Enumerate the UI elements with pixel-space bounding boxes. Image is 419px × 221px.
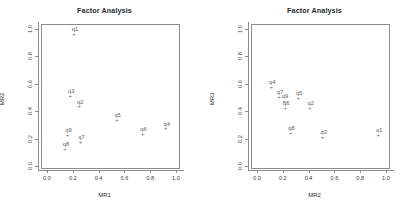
x-tick-label-right: 0.4 <box>305 175 313 181</box>
x-tick-label-right: 0.8 <box>356 175 364 181</box>
point-label: q1 <box>72 26 78 32</box>
y-tick-left <box>35 166 38 167</box>
x-tick-label-left: 1.0 <box>172 175 180 181</box>
x-tick-label-right: 1.0 <box>382 175 390 181</box>
x-tick-left <box>150 170 151 173</box>
x-tick-right <box>283 170 284 173</box>
y-tick-left <box>35 139 38 140</box>
point-label: q4 <box>163 121 169 127</box>
point-label: q6 <box>140 126 146 132</box>
point-label: q5 <box>114 112 120 118</box>
y-tick-right <box>245 166 248 167</box>
plus-marker-icon: + <box>71 32 76 37</box>
plus-marker-icon: + <box>320 135 325 140</box>
point-label: q2 <box>308 100 314 106</box>
y-tick-right <box>245 29 248 30</box>
x-axis-label-right: MR2 <box>210 192 419 198</box>
plus-marker-icon: + <box>288 131 293 136</box>
plus-marker-icon: + <box>376 133 381 138</box>
y-tick-label-right: 0.4 <box>237 107 243 115</box>
y-tick-label-left: 0.6 <box>27 80 33 88</box>
plot-area-right <box>251 24 390 169</box>
y-tick-right <box>245 111 248 112</box>
x-tick-right <box>309 170 310 173</box>
point-label: q3 <box>321 129 327 135</box>
y-tick-right <box>245 56 248 57</box>
point-label: q8 <box>288 125 294 131</box>
figure-canvas: Factor Analysis MR1 MR2 0.00.20.40.60.81… <box>0 0 419 221</box>
x-tick-label-left: 0.8 <box>146 175 154 181</box>
point-label: q9 <box>65 127 71 133</box>
plus-marker-icon: + <box>296 96 301 101</box>
point-label: q3 <box>68 88 74 94</box>
y-tick-label-left: 0.4 <box>27 107 33 115</box>
x-tick-label-left: 0.2 <box>69 175 77 181</box>
point-label: q2 <box>77 99 83 105</box>
plus-marker-icon: + <box>78 140 83 145</box>
y-tick-label-right: 0.2 <box>237 135 243 143</box>
x-tick-right <box>334 170 335 173</box>
plus-marker-icon: + <box>114 118 119 123</box>
y-tick-label-left: 1.0 <box>27 25 33 33</box>
plus-marker-icon: + <box>140 132 145 137</box>
y-tick-label-right: 0.8 <box>237 53 243 61</box>
plus-marker-icon: + <box>283 106 288 111</box>
plus-marker-icon: + <box>68 94 73 99</box>
y-tick-label-left: 0.2 <box>27 135 33 143</box>
point-label: q8 <box>63 141 69 147</box>
x-tick-right <box>257 170 258 173</box>
point-label: q5 <box>296 90 302 96</box>
y-tick-left <box>35 56 38 57</box>
plot-panel-left: Factor Analysis MR1 MR2 0.00.20.40.60.81… <box>0 0 209 221</box>
plus-marker-icon: + <box>62 147 67 152</box>
plus-marker-icon: + <box>65 133 70 138</box>
y-tick-right <box>245 139 248 140</box>
point-label: q6 <box>283 100 289 106</box>
plus-marker-icon: + <box>163 126 168 131</box>
x-tick-label-right: 0.2 <box>279 175 287 181</box>
x-tick-right <box>386 170 387 173</box>
x-tick-left <box>73 170 74 173</box>
plus-marker-icon: + <box>77 104 82 109</box>
y-tick-left <box>35 84 38 85</box>
plot-title-left: Factor Analysis <box>0 6 209 15</box>
plus-marker-icon: + <box>269 85 274 90</box>
point-label: q4 <box>269 79 275 85</box>
x-tick-label-left: 0.0 <box>43 175 51 181</box>
y-tick-label-left: 0.8 <box>27 53 33 61</box>
y-axis-label-left: MR2 <box>0 93 5 106</box>
x-tick-left <box>176 170 177 173</box>
point-label: q1 <box>376 127 382 133</box>
y-axis-label-right: MR3 <box>209 93 215 106</box>
x-tick-label-right: 0.0 <box>253 175 261 181</box>
x-axis-line-right <box>248 170 394 171</box>
y-tick-right <box>245 84 248 85</box>
x-tick-left <box>124 170 125 173</box>
y-tick-label-right: 1.0 <box>237 25 243 33</box>
x-axis-label-left: MR1 <box>0 192 209 198</box>
x-tick-label-left: 0.6 <box>121 175 129 181</box>
y-tick-label-right: 0.6 <box>237 80 243 88</box>
x-tick-right <box>360 170 361 173</box>
x-tick-left <box>99 170 100 173</box>
x-tick-left <box>47 170 48 173</box>
y-axis-line-right <box>248 22 249 171</box>
x-tick-label-right: 0.6 <box>331 175 339 181</box>
plot-panel-right: Factor Analysis MR2 MR3 0.00.20.40.60.81… <box>210 0 419 221</box>
y-axis-line-left <box>38 22 39 171</box>
point-label: q7 <box>78 134 84 140</box>
y-tick-label-right: 0.0 <box>237 162 243 170</box>
y-tick-left <box>35 29 38 30</box>
plot-title-right: Factor Analysis <box>210 6 419 15</box>
y-tick-left <box>35 111 38 112</box>
x-tick-label-left: 0.4 <box>95 175 103 181</box>
plus-marker-icon: + <box>307 106 312 111</box>
y-tick-label-left: 0.0 <box>27 162 33 170</box>
point-label: q9 <box>282 93 288 99</box>
x-axis-line-left <box>38 170 184 171</box>
